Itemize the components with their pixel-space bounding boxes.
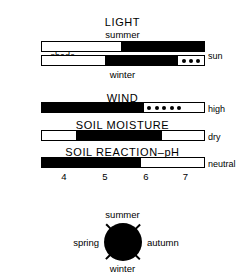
bar-segment-white [42,131,76,140]
season-wheel-tick [135,254,141,260]
bar-segment-black [42,158,141,167]
ph-tick-label: 4 [61,171,66,183]
bar-soil-reaction-ph [41,157,205,168]
season-label-autumn: autumn [147,237,202,248]
soil-moisture-right-label: dry [208,132,221,142]
bar-dot [155,106,159,110]
bar-segment-black [105,56,178,65]
bar-segment-white [162,131,204,140]
season-wheel: summer spring autumn winter [0,205,245,277]
wind-right-label: high [208,104,225,114]
ph-tick-label: 6 [143,171,148,183]
season-label-spring: spring [47,237,99,248]
bar-segment-white [42,42,121,51]
bar-dot [162,106,166,110]
bar-segment-dotted [178,56,204,65]
season-label-summer: summer [0,209,245,220]
bar-light-summer [41,41,205,52]
bar-soil-moisture [41,130,205,141]
bar-dot [182,59,186,63]
bar-segment-dotted [144,103,185,112]
bar-dot [177,106,181,110]
ph-scale: 4567 [41,171,205,183]
ph-tick-label: 5 [102,171,107,183]
bar-wind [41,102,205,113]
bar-segment-white [185,103,204,112]
bar-dot [147,106,151,110]
ecological-indicator-diagram: LIGHT summer shade sun winter WIND low h… [0,0,245,279]
bar-dot [189,59,193,63]
season-label-winter: winter [0,263,245,274]
bar-dot [196,59,200,63]
bar-segment-white [141,158,204,167]
light-winter-sublabel: winter [0,69,245,80]
bar-light-winter [41,55,205,66]
bar-segment-black [121,42,204,51]
bar-segment-white [42,56,105,65]
soil-reaction-right-label: neutral [208,159,236,169]
light-summer-sublabel: summer [0,29,245,40]
ph-tick-label: 7 [183,171,188,183]
bar-dot [170,106,174,110]
section-title-light: LIGHT [0,16,245,28]
bar-segment-black [42,103,144,112]
bar-segment-black [76,131,162,140]
light-right-label: sun [208,51,223,61]
